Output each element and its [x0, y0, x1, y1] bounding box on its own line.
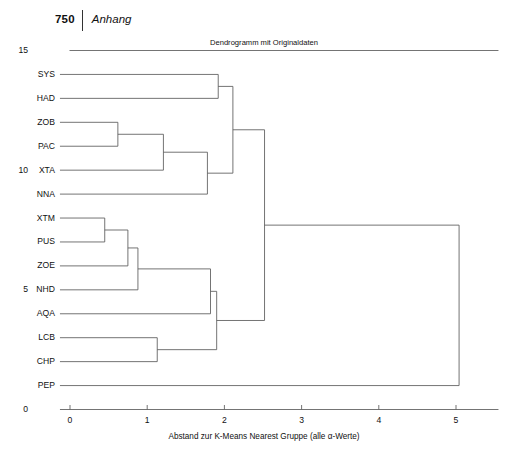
x-axis-tick-3: 3: [282, 416, 322, 425]
leaf-label-aqa: AQA: [0, 309, 55, 318]
leaf-label-xta: XTA: [0, 166, 55, 175]
leaf-label-pac: PAC: [0, 142, 55, 151]
figure-page: 750 Anhang Dendrogramm mit Originaldaten…: [0, 0, 528, 454]
leaf-label-had: HAD: [0, 94, 55, 103]
leaf-label-xtm: XTM: [0, 214, 55, 223]
leaf-label-sys: SYS: [0, 70, 55, 79]
leaf-label-pep: PEP: [0, 381, 55, 390]
x-axis-label: Abstand zur K-Means Nearest Gruppe (alle…: [0, 432, 528, 441]
x-axis-tick-4: 4: [359, 416, 399, 425]
leaf-label-chp: CHP: [0, 357, 55, 366]
x-axis-tick-2: 2: [204, 416, 244, 425]
y-axis-tick-15: 15: [0, 46, 28, 55]
leaf-label-nhd: NHD: [0, 285, 55, 294]
x-axis-tick-5: 5: [436, 416, 476, 425]
dendrogram-plot: [0, 0, 528, 454]
leaf-label-pus: PUS: [0, 237, 55, 246]
leaf-label-nna: NNA: [0, 190, 55, 199]
leaf-label-zob: ZOB: [0, 118, 55, 127]
y-axis-tick-0: 0: [0, 405, 28, 414]
x-axis-tick-0: 0: [50, 416, 90, 425]
leaf-label-zoe: ZOE: [0, 261, 55, 270]
x-axis-tick-1: 1: [127, 416, 167, 425]
leaf-label-lcb: LCB: [0, 333, 55, 342]
